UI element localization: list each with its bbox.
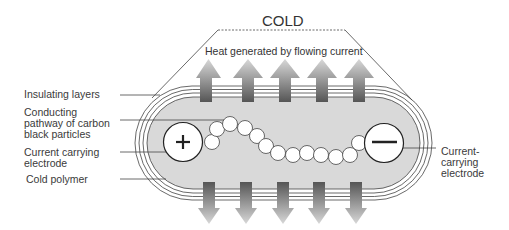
insulating-layers-label: Insulating layers [24, 89, 100, 100]
conducting-pathway-label: Conducting pathway of carbon black parti… [24, 107, 110, 140]
positive-electrode [164, 123, 203, 162]
left-electrode-label: Current carrying electrode [24, 147, 99, 169]
cold-label: COLD [262, 12, 304, 29]
heat-generated-label: Heat generated by flowing current [205, 45, 363, 57]
negative-electrode [365, 124, 404, 163]
right-electrode-label: Current- carrying electrode [441, 146, 484, 179]
cold-polymer-label: Cold polymer [26, 174, 88, 185]
heat-arrows-up [196, 59, 374, 102]
